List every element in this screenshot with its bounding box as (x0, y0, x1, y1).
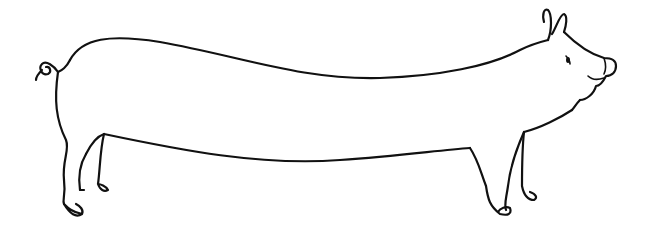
front-legs (470, 110, 572, 215)
pig-back (70, 38, 548, 78)
pig-belly (104, 134, 470, 161)
pig-illustration: Black outline sketch of a pig with an ex… (0, 0, 649, 236)
rear-legs (56, 72, 108, 216)
pig-head (543, 10, 616, 110)
long-pig-drawing (0, 0, 649, 236)
curly-tail (36, 60, 70, 80)
